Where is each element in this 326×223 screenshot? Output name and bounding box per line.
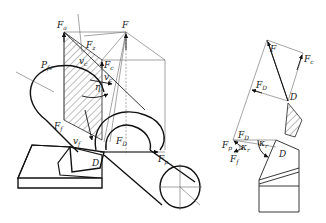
label-ff: Ff xyxy=(53,121,64,133)
label-pfe: Pfe xyxy=(40,60,53,72)
right-label-d-bottom: D xyxy=(278,149,286,159)
left-view: Fa F Fz Pfe vc Fc vc η Ff vf D FD Fp xyxy=(16,14,202,210)
right-label-fc: Fc xyxy=(303,54,314,65)
label-vc2: vc xyxy=(104,72,113,83)
hatched-chip-right xyxy=(285,103,302,137)
label-fp: Fp xyxy=(157,154,168,166)
right-fd-arrow xyxy=(252,90,262,93)
label-fc: Fc xyxy=(103,60,114,71)
right-label-f: F xyxy=(269,44,277,54)
diagram-svg: Fa F Fz Pfe vc Fc vc η Ff vf D FD Fp xyxy=(0,0,326,223)
right-label-fp: Fp xyxy=(221,140,232,152)
label-vf: vf xyxy=(73,136,82,148)
right-label-kr1: κr xyxy=(240,142,251,153)
cutting-force-diagram: Fa F Fz Pfe vc Fc vc η Ff vf D FD Fp xyxy=(0,0,326,223)
right-label-d-top: D xyxy=(289,92,297,102)
label-d: D xyxy=(91,158,99,168)
right-label-ff: Ff xyxy=(229,154,240,166)
label-fz: Fz xyxy=(85,40,96,51)
right-label-fd-top: FD xyxy=(255,80,267,91)
right-label-fd-bottom: FD xyxy=(237,130,249,141)
label-f: F xyxy=(121,20,129,30)
right-fc-arrow xyxy=(297,55,302,70)
label-fd: FD xyxy=(115,136,127,147)
label-eta: η xyxy=(95,82,101,92)
label-fa: Fa xyxy=(56,20,67,31)
right-label-kr2: κr xyxy=(258,138,269,149)
right-view: F Fc FD D FD Fp κr κr Ff D xyxy=(221,40,314,212)
